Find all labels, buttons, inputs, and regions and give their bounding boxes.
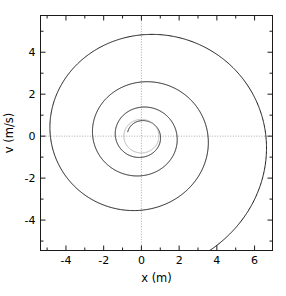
x-tick-label: 6 [251, 254, 258, 267]
trajectory-curves [50, 34, 267, 252]
x-tick-label: 2 [176, 254, 183, 267]
x-axis-title: x (m) [141, 271, 172, 285]
clipped-curves [50, 34, 267, 252]
y-tick-label: -2 [25, 172, 36, 185]
x-tick-label: -2 [98, 254, 109, 267]
x-tick-label: 4 [213, 254, 220, 267]
axis-ticks [41, 16, 273, 251]
zero-gridlines [41, 16, 273, 251]
damped-oscillator-trajectory [50, 34, 267, 252]
y-axis-title: v (m/s) [2, 113, 16, 154]
y-tick-label: 0 [29, 130, 36, 143]
y-tick-label: 4 [29, 46, 36, 59]
phase-space-plot: -4-20246-4-2024 x (m) v (m/s) [0, 0, 286, 296]
axis-titles: x (m) v (m/s) [2, 113, 172, 285]
x-tick-label: 0 [138, 254, 145, 267]
x-tick-label: -4 [60, 254, 71, 267]
y-tick-label: 2 [29, 88, 36, 101]
y-tick-label: -4 [25, 214, 36, 227]
axes-frame [41, 16, 273, 251]
phase-space-figure: -4-20246-4-2024 x (m) v (m/s) [0, 0, 286, 296]
plot-frame [41, 16, 273, 251]
